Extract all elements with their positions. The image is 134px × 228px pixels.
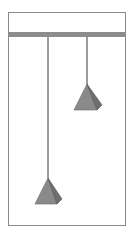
frame [9, 13, 126, 226]
pendulum-diagram [0, 0, 134, 228]
support-bar [9, 32, 125, 37]
